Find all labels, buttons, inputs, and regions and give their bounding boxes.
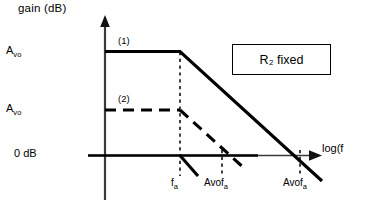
x-tick-avofa-near-subscript: a — [224, 182, 228, 191]
y-tick-avo-high-subscript: vo — [13, 50, 21, 59]
x-tick-avofa-near-base: Avof — [204, 177, 224, 188]
x-axis-label: log(f — [322, 143, 343, 154]
y-tick-zero-db: 0 dB — [14, 148, 37, 159]
x-tick-avofa-far-base: Avof — [283, 177, 303, 188]
bode-plot-svg — [0, 0, 370, 208]
y-tick-avo-low: Avo — [6, 103, 22, 114]
y-tick-avo-high: Avo — [6, 45, 22, 56]
curve-1-label: (1) — [118, 36, 130, 46]
x-tick-avofa-far: Avofa — [283, 178, 307, 188]
figure-canvas: gain (dB) Avo Avo 0 dB (1) (2) fa Avofa … — [0, 0, 370, 208]
annotation-box-text: R₂ fixed — [233, 45, 330, 74]
y-tick-avo-low-subscript: vo — [13, 108, 21, 117]
x-tick-avofa-near: Avofa — [204, 178, 228, 188]
annotation-box: R₂ fixed — [232, 44, 331, 75]
y-axis-title: gain (dB) — [18, 3, 66, 15]
x-tick-fa-subscript: a — [174, 182, 178, 191]
curve-2-label: (2) — [118, 94, 130, 104]
y-axis — [100, 15, 110, 200]
curve-2-dashed — [105, 110, 244, 168]
curve-1-below-axis-stub — [180, 156, 198, 177]
x-tick-avofa-far-subscript: a — [303, 182, 307, 191]
x-tick-fa: fa — [171, 178, 178, 188]
